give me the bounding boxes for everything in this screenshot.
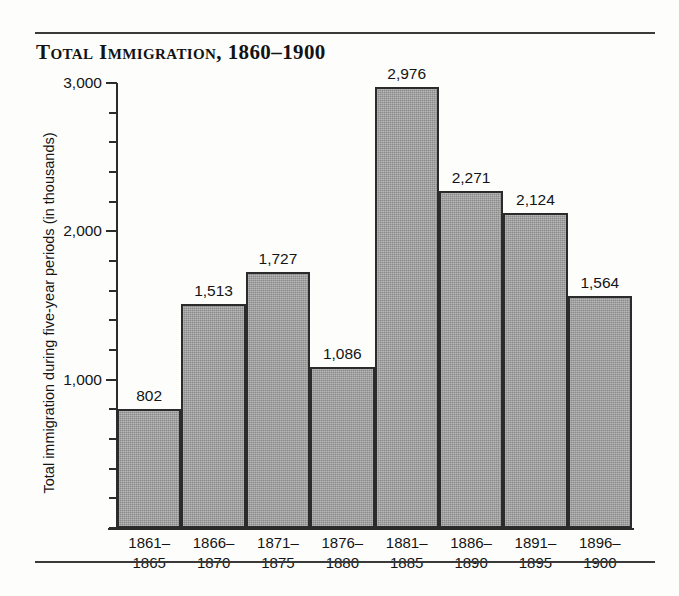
bar xyxy=(439,191,503,528)
y-tick-minor xyxy=(109,408,117,410)
x-axis-category-line: 1865 xyxy=(117,553,181,573)
y-tick-minor xyxy=(109,349,117,351)
x-axis-category-label: 1876–1880 xyxy=(310,533,374,573)
y-tick-minor xyxy=(109,290,117,292)
x-axis-line xyxy=(108,528,634,530)
bar xyxy=(503,213,567,528)
y-axis-tick-label: 2,000 xyxy=(63,222,102,240)
top-rule xyxy=(35,32,655,34)
bar-slot: 1,513 xyxy=(181,83,245,528)
bar xyxy=(246,272,310,528)
y-tick-minor xyxy=(109,201,117,203)
bar-slot: 802 xyxy=(117,83,181,528)
x-axis-category-line: 1900 xyxy=(568,553,632,573)
x-axis-category-line: 1880 xyxy=(310,553,374,573)
immigration-bar-chart-figure: Total Immigration, 1860–1900 Total immig… xyxy=(0,0,679,596)
x-axis-category-line: 1885 xyxy=(375,553,439,573)
bar-slot: 1,086 xyxy=(310,83,374,528)
x-axis-category-line: 1861– xyxy=(117,533,181,553)
bar xyxy=(310,367,374,528)
x-axis-category-label: 1861–1865 xyxy=(117,533,181,573)
y-tick-major xyxy=(106,82,117,84)
x-axis-category-line: 1875 xyxy=(246,553,310,573)
bar xyxy=(181,304,245,528)
x-axis-category-line: 1890 xyxy=(439,553,503,573)
x-axis-category-line: 1896– xyxy=(568,533,632,553)
bar-slot: 2,976 xyxy=(375,83,439,528)
y-axis-tick-label: 3,000 xyxy=(63,74,102,92)
y-axis-tick-label: 1,000 xyxy=(63,371,102,389)
x-axis-category-label: 1886–1890 xyxy=(439,533,503,573)
bar-value-label: 1,727 xyxy=(246,250,310,268)
bar-slot: 1,727 xyxy=(246,83,310,528)
plot-area: 1,0002,0003,000 8021,5131,7271,0862,9762… xyxy=(117,83,632,528)
bars-group: 8021,5131,7271,0862,9762,2712,1241,564 xyxy=(117,83,632,528)
y-tick-minor xyxy=(109,171,117,173)
y-tick-major xyxy=(106,379,117,381)
bar-slot: 2,124 xyxy=(503,83,567,528)
x-axis-category-line: 1881– xyxy=(375,533,439,553)
bar-value-label: 2,124 xyxy=(503,191,567,209)
y-tick-minor xyxy=(109,527,117,529)
y-axis-title: Total immigration during five-year perio… xyxy=(41,98,57,528)
y-tick-minor xyxy=(109,112,117,114)
y-tick-major xyxy=(106,230,117,232)
x-axis-category-labels: 1861–18651866–18701871–18751876–18801881… xyxy=(117,533,632,579)
bar-value-label: 1,564 xyxy=(568,274,632,292)
bar-value-label: 2,271 xyxy=(439,169,503,187)
x-axis-category-label: 1871–1875 xyxy=(246,533,310,573)
bar xyxy=(568,296,632,528)
bottom-rule xyxy=(35,561,655,563)
x-axis-category-label: 1896–1900 xyxy=(568,533,632,573)
y-tick-minor xyxy=(109,319,117,321)
bar-slot: 1,564 xyxy=(568,83,632,528)
x-axis-category-line: 1870 xyxy=(181,553,245,573)
x-axis-category-label: 1866–1870 xyxy=(181,533,245,573)
bar xyxy=(117,409,181,528)
x-axis-category-line: 1876– xyxy=(310,533,374,553)
bar-value-label: 2,976 xyxy=(375,65,439,83)
y-tick-minor xyxy=(109,438,117,440)
x-axis-category-line: 1871– xyxy=(246,533,310,553)
x-axis-category-line: 1866– xyxy=(181,533,245,553)
x-axis-category-line: 1891– xyxy=(503,533,567,553)
bar xyxy=(375,87,439,528)
bar-value-label: 1,086 xyxy=(310,345,374,363)
bar-value-label: 802 xyxy=(117,387,181,405)
x-axis-category-label: 1881–1885 xyxy=(375,533,439,573)
y-tick-minor xyxy=(109,468,117,470)
y-tick-minor xyxy=(109,260,117,262)
bar-slot: 2,271 xyxy=(439,83,503,528)
x-axis-category-line: 1886– xyxy=(439,533,503,553)
x-axis-category-label: 1891–1895 xyxy=(503,533,567,573)
x-axis-category-line: 1895 xyxy=(503,553,567,573)
y-tick-minor xyxy=(109,141,117,143)
bar-value-label: 1,513 xyxy=(181,282,245,300)
y-tick-minor xyxy=(109,497,117,499)
chart-title: Total Immigration, 1860–1900 xyxy=(36,40,326,65)
